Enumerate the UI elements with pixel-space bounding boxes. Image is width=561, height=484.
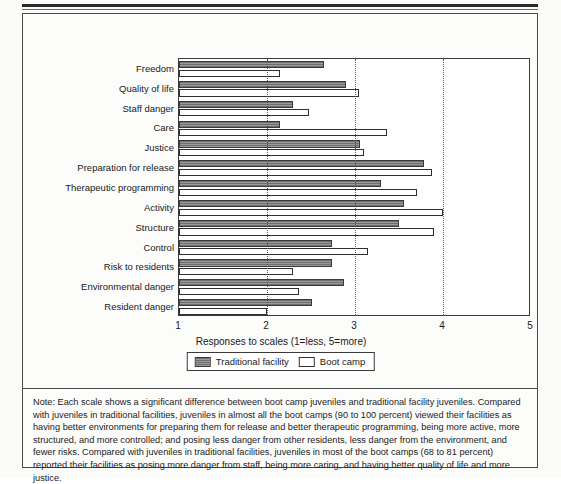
category-label: Structure: [135, 223, 174, 233]
bar-traditional-facility: [179, 140, 360, 147]
bar-boot-camp: [179, 149, 364, 156]
bar-traditional-facility: [179, 81, 346, 88]
bar-row: Structure: [179, 218, 529, 238]
bar-row: Justice: [179, 138, 529, 158]
figure-note: Note: Each scale shows a significant dif…: [33, 396, 527, 484]
category-label: Environmental danger: [81, 282, 174, 292]
gridline-2: [267, 59, 268, 315]
x-tick-label-3: 3: [351, 320, 357, 331]
category-label: Freedom: [136, 64, 174, 74]
legend-item-traditional-facility: Traditional facility: [195, 356, 289, 367]
bar-traditional-facility: [179, 240, 332, 247]
bar-traditional-facility: [179, 279, 344, 286]
x-tick-label-1: 1: [175, 320, 181, 331]
bar-row: Environmental danger: [179, 277, 529, 297]
bar-boot-camp: [179, 109, 309, 116]
bar-traditional-facility: [179, 200, 404, 207]
bar-row: Staff danger: [179, 99, 529, 119]
bar-row: Freedom: [179, 59, 529, 79]
gridline-4: [443, 59, 444, 315]
category-label: Therapeutic programming: [65, 183, 174, 193]
bar-traditional-facility: [179, 121, 280, 128]
bar-rows: FreedomQuality of lifeStaff dangerCareJu…: [179, 59, 529, 315]
x-tick-label-4: 4: [439, 320, 445, 331]
top-rule-thin: [22, 9, 538, 10]
legend-label-boot-camp: Boot camp: [320, 356, 365, 367]
category-label: Control: [143, 243, 174, 253]
x-tick-label-5: 5: [527, 320, 533, 331]
category-label: Preparation for release: [77, 163, 174, 173]
bar-boot-camp: [179, 169, 432, 176]
bar-row: Activity: [179, 198, 529, 218]
figure-frame: FreedomQuality of lifeStaff dangerCareJu…: [22, 13, 538, 468]
bar-boot-camp: [179, 288, 299, 295]
legend-swatch-boot-camp: [299, 357, 315, 367]
category-label: Care: [153, 123, 174, 133]
chart-area: FreedomQuality of lifeStaff dangerCareJu…: [23, 14, 539, 379]
x-axis-tick-labels: 12345: [178, 320, 530, 334]
bar-row: Risk to residents: [179, 257, 529, 277]
category-label: Quality of life: [119, 84, 174, 94]
bar-boot-camp: [179, 268, 293, 275]
bar-boot-camp: [179, 70, 280, 77]
category-label: Risk to residents: [104, 262, 174, 272]
bar-row: Resident danger: [179, 297, 529, 317]
bar-row: Therapeutic programming: [179, 178, 529, 198]
bar-boot-camp: [179, 189, 417, 196]
bar-boot-camp: [179, 248, 368, 255]
legend-item-boot-camp: Boot camp: [299, 356, 365, 367]
bar-traditional-facility: [179, 259, 332, 266]
x-tick-label-2: 2: [263, 320, 269, 331]
bar-traditional-facility: [179, 101, 293, 108]
bar-boot-camp: [179, 89, 359, 96]
bar-row: Quality of life: [179, 79, 529, 99]
category-label: Staff danger: [122, 104, 174, 114]
plot-area: FreedomQuality of lifeStaff dangerCareJu…: [178, 58, 530, 316]
bar-traditional-facility: [179, 61, 324, 68]
bar-boot-camp: [179, 228, 434, 235]
bar-traditional-facility: [179, 299, 312, 306]
gridline-3: [355, 59, 356, 315]
category-label: Justice: [144, 143, 174, 153]
chart-legend: Traditional facility Boot camp: [187, 352, 375, 371]
bar-row: Care: [179, 119, 529, 139]
bar-row: Preparation for release: [179, 158, 529, 178]
bar-row: Control: [179, 238, 529, 258]
category-label: Resident danger: [104, 302, 174, 312]
bar-boot-camp: [179, 209, 443, 216]
note-divider: [23, 388, 537, 389]
bar-traditional-facility: [179, 160, 424, 167]
legend-label-traditional-facility: Traditional facility: [216, 356, 289, 367]
top-rule-thick: [22, 4, 538, 7]
bar-boot-camp: [179, 308, 267, 315]
bar-traditional-facility: [179, 180, 381, 187]
x-axis-title: Responses to scales (1=less, 5=more): [23, 336, 539, 347]
category-label: Activity: [144, 203, 174, 213]
bar-traditional-facility: [179, 220, 399, 227]
legend-swatch-traditional-facility: [195, 357, 211, 367]
